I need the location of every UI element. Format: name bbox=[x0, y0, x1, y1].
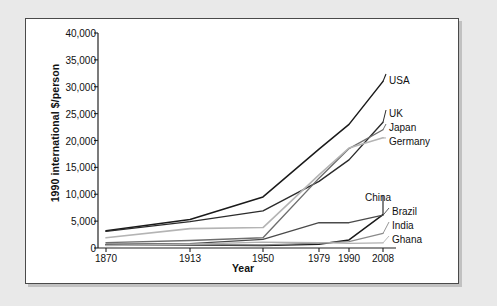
leader-line-japan bbox=[383, 124, 386, 130]
series-label-india: India bbox=[392, 220, 414, 231]
y-axis-title: 1990 international $/person bbox=[49, 38, 61, 228]
y-tick-30000: 30,000 bbox=[34, 82, 96, 93]
series-label-japan: Japan bbox=[389, 122, 416, 133]
series-label-uk: UK bbox=[389, 108, 403, 119]
x-axis-title: Year bbox=[26, 262, 460, 274]
series-line-uk bbox=[106, 122, 383, 231]
y-tick-15000: 15,000 bbox=[34, 162, 96, 173]
series-line-brazil bbox=[106, 215, 383, 244]
y-tick-35000: 35,000 bbox=[34, 55, 96, 66]
chart-panel: 40,000 35,000 30,000 25,000 20,000 15,00… bbox=[25, 18, 459, 284]
chart-figure: 40,000 35,000 30,000 25,000 20,000 15,00… bbox=[0, 0, 497, 306]
series-label-china: China bbox=[365, 192, 391, 203]
series-label-brazil: Brazil bbox=[392, 206, 417, 217]
leader-line-india bbox=[383, 222, 389, 233]
y-tick-10000: 10,000 bbox=[34, 189, 96, 200]
leader-line-brazil bbox=[383, 208, 389, 215]
y-tick-5000: 5,000 bbox=[34, 216, 96, 227]
plot-area: 40,000 35,000 30,000 25,000 20,000 15,00… bbox=[26, 19, 458, 283]
leader-line-usa bbox=[383, 74, 386, 81]
series-label-ghana: Ghana bbox=[392, 234, 422, 245]
series-label-germany: Germany bbox=[389, 136, 430, 147]
series-label-usa: USA bbox=[389, 75, 410, 86]
y-tick-40000: 40,000 bbox=[34, 28, 96, 39]
leader-line-ghana bbox=[383, 236, 389, 243]
y-tick-25000: 25,000 bbox=[34, 109, 96, 120]
y-tick-20000: 20,000 bbox=[34, 136, 96, 147]
leader-line-uk bbox=[383, 110, 386, 122]
